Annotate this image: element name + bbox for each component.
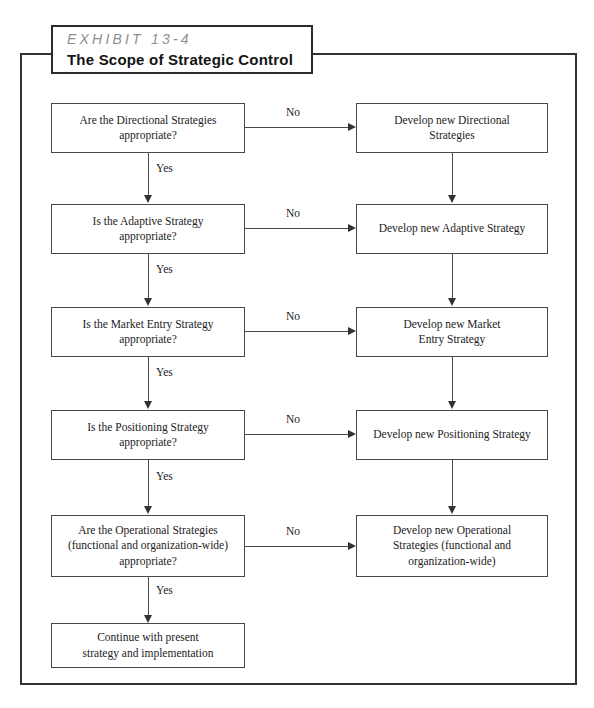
arrowhead-yes-operational-icon <box>144 615 152 623</box>
frame-border-top-left-segment <box>20 53 53 55</box>
connector-return-market-entry <box>452 357 453 401</box>
decision-line-2: appropriate? <box>119 333 176 345</box>
decision-line-1: Are the Directional Strategies <box>80 114 217 126</box>
connector-no-directional <box>245 127 348 128</box>
decision-box-adaptive[interactable]: Is the Adaptive Strategy appropriate? <box>51 204 245 254</box>
action-line-1: Develop new Market <box>403 318 500 330</box>
action-box-operational-text: Develop new Operational Strategies (func… <box>393 523 511 569</box>
decision-line-2: (functional and organization-wide) <box>68 539 228 551</box>
arrowhead-return-positioning-icon <box>448 506 456 514</box>
edge-label-no-market-entry: No <box>286 310 300 322</box>
action-box-positioning[interactable]: Develop new Positioning Strategy <box>356 410 548 460</box>
decision-box-directional-text: Are the Directional Strategies appropria… <box>80 113 217 143</box>
exhibit-title-banner: EXHIBIT 13-4 The Scope of Strategic Cont… <box>51 25 313 74</box>
decision-line-1: Is the Positioning Strategy <box>87 421 209 433</box>
connector-no-adaptive <box>245 228 348 229</box>
decision-line-1: Is the Adaptive Strategy <box>93 215 204 227</box>
arrowhead-yes-adaptive-icon <box>144 298 152 306</box>
action-box-positioning-text: Develop new Positioning Strategy <box>373 427 530 442</box>
connector-yes-operational <box>148 577 149 615</box>
connector-yes-market-entry <box>148 357 149 401</box>
edge-label-no-operational: No <box>286 525 300 537</box>
decision-box-directional[interactable]: Are the Directional Strategies appropria… <box>51 103 245 153</box>
connector-no-market-entry <box>245 331 348 332</box>
action-box-directional-text: Develop new Directional Strategies <box>394 113 510 143</box>
connector-no-operational <box>245 546 348 547</box>
edge-label-yes-directional: Yes <box>156 162 173 174</box>
arrowhead-yes-market-entry-icon <box>144 401 152 409</box>
action-box-market-entry[interactable]: Develop new Market Entry Strategy <box>356 307 548 357</box>
connector-yes-directional <box>148 153 149 195</box>
decision-line-2: appropriate? <box>119 436 176 448</box>
action-line-1: Develop new Operational <box>393 524 511 536</box>
arrowhead-yes-positioning-icon <box>144 506 152 514</box>
frame-border-top-right-segment <box>312 53 577 55</box>
arrowhead-return-directional-icon <box>448 195 456 203</box>
connector-no-positioning <box>245 434 348 435</box>
edge-label-yes-market-entry: Yes <box>156 366 173 378</box>
decision-box-positioning-text: Is the Positioning Strategy appropriate? <box>87 420 209 450</box>
arrowhead-no-market-entry-icon <box>348 327 356 335</box>
exhibit-diagram: EXHIBIT 13-4 The Scope of Strategic Cont… <box>0 0 594 708</box>
decision-box-market-entry[interactable]: Is the Market Entry Strategy appropriate… <box>51 307 245 357</box>
frame-border-right <box>575 53 577 685</box>
action-box-adaptive[interactable]: Develop new Adaptive Strategy <box>356 204 548 254</box>
arrowhead-return-market-entry-icon <box>448 401 456 409</box>
arrowhead-no-operational-icon <box>348 542 356 550</box>
terminal-box-text: Continue with present strategy and imple… <box>83 630 214 660</box>
action-line-1: Develop new Positioning Strategy <box>373 428 530 440</box>
decision-box-operational-text: Are the Operational Strategies (function… <box>68 523 228 569</box>
connector-return-adaptive <box>452 254 453 298</box>
decision-box-adaptive-text: Is the Adaptive Strategy appropriate? <box>93 214 204 244</box>
edge-label-no-directional: No <box>286 106 300 118</box>
arrowhead-no-adaptive-icon <box>348 224 356 232</box>
terminal-line-2: strategy and implementation <box>83 647 214 659</box>
frame-border-bottom <box>20 683 577 685</box>
connector-return-directional <box>452 153 453 195</box>
action-line-1: Develop new Directional <box>394 114 510 126</box>
connector-return-positioning <box>452 460 453 506</box>
action-box-operational[interactable]: Develop new Operational Strategies (func… <box>356 515 548 577</box>
exhibit-number-label: EXHIBIT 13-4 <box>67 31 192 47</box>
decision-line-3: appropriate? <box>119 555 176 567</box>
arrowhead-no-directional-icon <box>348 123 356 131</box>
connector-yes-adaptive <box>148 254 149 298</box>
edge-label-yes-operational: Yes <box>156 584 173 596</box>
decision-line-2: appropriate? <box>119 129 176 141</box>
terminal-box-continue[interactable]: Continue with present strategy and imple… <box>51 623 245 668</box>
action-line-2: Strategies <box>429 129 474 141</box>
decision-box-positioning[interactable]: Is the Positioning Strategy appropriate? <box>51 410 245 460</box>
frame-border-left <box>20 53 22 685</box>
arrowhead-yes-directional-icon <box>144 195 152 203</box>
edge-label-no-adaptive: No <box>286 207 300 219</box>
action-line-2: Strategies (functional and <box>393 539 511 551</box>
decision-box-market-entry-text: Is the Market Entry Strategy appropriate… <box>83 317 214 347</box>
exhibit-title: The Scope of Strategic Control <box>67 51 293 68</box>
terminal-line-1: Continue with present <box>97 631 199 643</box>
edge-label-yes-positioning: Yes <box>156 470 173 482</box>
decision-box-operational[interactable]: Are the Operational Strategies (function… <box>51 515 245 577</box>
action-box-market-entry-text: Develop new Market Entry Strategy <box>403 317 500 347</box>
action-line-3: organization-wide) <box>408 555 495 567</box>
decision-line-2: appropriate? <box>119 230 176 242</box>
arrowhead-return-adaptive-icon <box>448 298 456 306</box>
action-line-1: Develop new Adaptive Strategy <box>379 222 526 234</box>
connector-yes-positioning <box>148 460 149 506</box>
arrowhead-no-positioning-icon <box>348 430 356 438</box>
edge-label-yes-adaptive: Yes <box>156 263 173 275</box>
action-box-directional[interactable]: Develop new Directional Strategies <box>356 103 548 153</box>
edge-label-no-positioning: No <box>286 413 300 425</box>
action-line-2: Entry Strategy <box>419 333 486 345</box>
decision-line-1: Are the Operational Strategies <box>78 524 218 536</box>
action-box-adaptive-text: Develop new Adaptive Strategy <box>379 221 526 236</box>
decision-line-1: Is the Market Entry Strategy <box>83 318 214 330</box>
